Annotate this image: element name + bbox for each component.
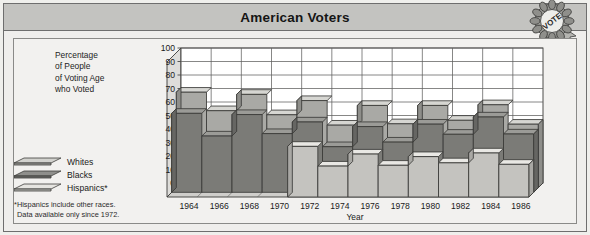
x-axis-tick-label: 1968 (240, 201, 259, 211)
x-axis-tick-label: 1982 (451, 201, 470, 211)
y-axis-caption-line-4: who Voted (55, 84, 150, 95)
y-axis-tick-label: 60 (165, 97, 175, 107)
legend-label-blacks: Blacks (67, 170, 92, 180)
x-axis-tick-label: 1970 (270, 201, 289, 211)
x-axis-title: Year (347, 212, 364, 221)
slab-swatch-icon (14, 157, 62, 166)
y-axis-tick-label: 90 (165, 57, 175, 67)
footnote-line-1: *Hispanics include other races. (14, 200, 115, 209)
legend-item-blacks: Blacks (14, 168, 144, 181)
x-axis-tick-label: 1980 (421, 201, 440, 211)
plot-area: 0102030405060708090100196419661968197019… (143, 40, 583, 220)
x-axis-tick-label: 1972 (300, 201, 319, 211)
legend-label-hispanics: Hispanics* (67, 183, 108, 193)
header-bar: American Voters (4, 4, 586, 31)
y-axis-caption-line-1: Percentage (55, 50, 150, 61)
legend-item-whites: Whites (14, 155, 144, 168)
y-axis-tick-label: 100 (161, 43, 176, 53)
x-axis-tick-label: 1966 (210, 201, 229, 211)
chart-legend: Whites Blacks Hispanics* (14, 155, 144, 194)
voter-turnout-3d-area-chart: 0102030405060708090100196419661968197019… (143, 40, 583, 220)
legend-label-whites: Whites (67, 157, 93, 167)
slab-swatch-icon (14, 183, 62, 192)
x-axis-tick-label: 1964 (180, 201, 199, 211)
y-axis-tick-label: 70 (165, 84, 175, 94)
x-axis-tick-label: 1976 (361, 201, 380, 211)
page-title: American Voters (4, 4, 586, 31)
x-axis-tick-label: 1974 (330, 201, 349, 211)
y-axis-caption-line-3: of Voting Age (55, 73, 150, 84)
y-axis-tick-label: 80 (165, 70, 175, 80)
legend-item-hispanics: Hispanics* (14, 181, 144, 194)
x-axis-tick-label: 1986 (511, 201, 530, 211)
x-axis-tick-label: 1984 (481, 201, 500, 211)
slab-swatch-icon (14, 170, 62, 179)
y-axis-caption-line-2: of People (55, 61, 150, 72)
x-axis-tick-label: 1978 (391, 201, 410, 211)
y-axis-caption: Percentage of People of Voting Age who V… (55, 50, 150, 95)
chart-screenshot: American Voters (0, 0, 590, 235)
